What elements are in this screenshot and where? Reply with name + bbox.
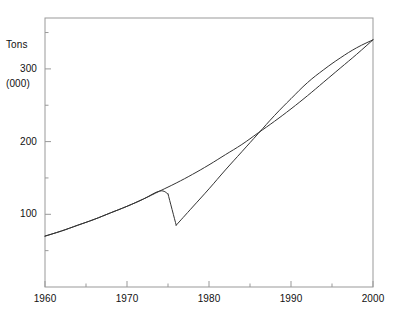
y-tick-label: 100 <box>7 208 37 219</box>
x-tick-label: 2000 <box>353 293 393 304</box>
plot-border <box>45 18 373 287</box>
y-tick-label: 300 <box>7 63 37 74</box>
y-tick-label: 200 <box>7 136 37 147</box>
x-tick-label: 1970 <box>107 293 147 304</box>
x-tick-label: 1990 <box>271 293 311 304</box>
x-tick-label: 1960 <box>25 293 65 304</box>
x-tick-label: 1980 <box>189 293 229 304</box>
plot-area <box>0 0 393 320</box>
plot-frame <box>45 18 373 287</box>
chart-container: Tons (000) 100200300 1960197019801990200… <box>0 0 393 320</box>
